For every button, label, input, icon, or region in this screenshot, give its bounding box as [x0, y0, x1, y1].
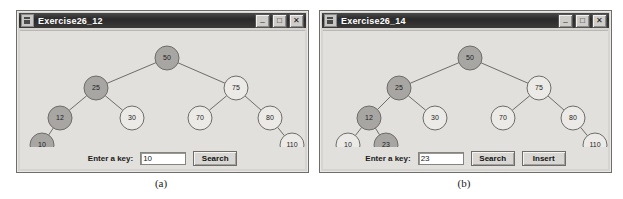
tree-edge	[245, 96, 261, 110]
tree-node-label: 12	[365, 114, 373, 121]
tree-edge	[512, 96, 530, 111]
tree-edge	[178, 63, 225, 83]
tree-node: 50	[155, 46, 179, 70]
maximize-button-b[interactable]: □	[575, 14, 590, 28]
window-buttons-a: _ □ ✕	[255, 14, 304, 28]
tree-node: 25	[84, 76, 108, 100]
tree-edge	[355, 127, 361, 135]
tree-node-label: 70	[499, 114, 507, 121]
tree-node: 70	[188, 106, 212, 130]
search-button-b[interactable]: Search	[471, 151, 515, 166]
tree-node-label: 50	[163, 54, 171, 61]
tree-edge	[375, 128, 379, 135]
tree-node: 75	[527, 76, 551, 100]
tree-edge	[105, 96, 123, 111]
java-app-icon	[21, 14, 34, 27]
tree-svg-b: 502512102330757080110	[323, 31, 608, 149]
maximize-icon: □	[576, 15, 589, 27]
tree-node-label: 80	[266, 114, 274, 121]
tree-node: 70	[491, 106, 515, 130]
tree-node-label: 75	[535, 84, 543, 91]
figure-binary-search-tree: Exercise26_12 _ □ ✕ 5025121030757080110 …	[0, 0, 623, 199]
control-panel-a: Enter a key: Search	[20, 147, 305, 169]
tree-node: 80	[258, 106, 282, 130]
tree-node-label: 30	[128, 114, 136, 121]
window-content-a: 5025121030757080110 Enter a key: Search	[20, 30, 305, 169]
tree-edge	[278, 127, 285, 135]
tree-edge	[49, 128, 54, 135]
tree-node: 30	[120, 106, 144, 130]
tree-node-label: 75	[232, 84, 240, 91]
tree-edge	[481, 63, 528, 83]
window-exercise26-12[interactable]: Exercise26_12 _ □ ✕ 5025121030757080110 …	[16, 10, 309, 173]
tree-node-label: 12	[56, 114, 64, 121]
window-content-b: 502512102330757080110 Enter a key: Searc…	[323, 30, 608, 169]
caption-b: (b)	[444, 177, 484, 189]
tree-node-label: 50	[466, 54, 474, 61]
tree-node: 80	[561, 106, 585, 130]
close-icon: ✕	[593, 15, 606, 27]
tree-node: 12	[48, 106, 72, 130]
caption-a: (a)	[141, 177, 181, 189]
tree-edge	[408, 96, 426, 111]
minimize-button-a[interactable]: _	[255, 14, 270, 28]
tree-svg-a: 5025121030757080110	[20, 31, 305, 149]
insert-button-b[interactable]: Insert	[522, 151, 566, 166]
search-button-a[interactable]: Search	[193, 151, 237, 166]
titlebar-a[interactable]: Exercise26_12 _ □ ✕	[19, 13, 306, 28]
tree-edge	[377, 96, 390, 109]
tree-node-label: 30	[431, 114, 439, 121]
key-input-a[interactable]	[140, 152, 186, 165]
control-panel-b: Enter a key: Search Insert	[323, 147, 608, 169]
tree-edge	[581, 127, 588, 135]
tree-node: 50	[458, 46, 482, 70]
minimize-icon: _	[256, 15, 269, 27]
tree-node-label: 70	[196, 114, 204, 121]
window-buttons-b: _ □ ✕	[558, 14, 607, 28]
tree-node: 30	[423, 106, 447, 130]
tree-edge	[209, 96, 227, 111]
window-title-a: Exercise26_12	[38, 16, 103, 26]
tree-node-label: 80	[569, 114, 577, 121]
enter-key-label-a: Enter a key:	[88, 154, 133, 163]
enter-key-label-b: Enter a key:	[365, 154, 410, 163]
close-button-a[interactable]: ✕	[289, 14, 304, 28]
minimize-icon: _	[559, 15, 572, 27]
tree-node-label: 25	[395, 84, 403, 91]
tree-edge	[107, 63, 156, 84]
key-input-b[interactable]	[418, 152, 464, 165]
window-title-b: Exercise26_14	[341, 16, 406, 26]
maximize-icon: □	[273, 15, 286, 27]
tree-node: 75	[224, 76, 248, 100]
tree-node-label: 25	[92, 84, 100, 91]
window-exercise26-14[interactable]: Exercise26_14 _ □ ✕ 50251210233075708011…	[319, 10, 612, 173]
java-app-icon	[324, 14, 337, 27]
tree-edge	[548, 96, 564, 110]
close-icon: ✕	[290, 15, 303, 27]
titlebar-b[interactable]: Exercise26_14 _ □ ✕	[322, 13, 609, 28]
tree-edge	[410, 63, 459, 84]
tree-canvas-a: 5025121030757080110	[20, 31, 305, 149]
maximize-button-a[interactable]: □	[272, 14, 287, 28]
tree-canvas-b: 502512102330757080110	[323, 31, 608, 149]
minimize-button-b[interactable]: _	[558, 14, 573, 28]
tree-edge	[69, 96, 87, 111]
tree-node: 25	[387, 76, 411, 100]
close-button-b[interactable]: ✕	[592, 14, 607, 28]
tree-node: 12	[357, 106, 381, 130]
